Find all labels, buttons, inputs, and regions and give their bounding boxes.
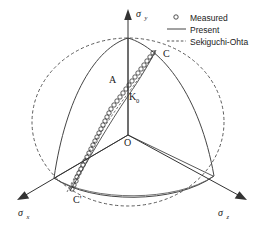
measured-point	[148, 55, 152, 59]
measured-point	[136, 71, 140, 75]
legend-label-sekiguchi-ohta: Sekiguchi-Ohta	[190, 37, 248, 47]
axis-sigma-z	[128, 135, 247, 200]
present-yield-surface	[54, 38, 214, 197]
measured-point	[112, 103, 116, 107]
label-sigma-y-symbol: σ	[136, 8, 142, 19]
axis-sigma-y	[124, 9, 132, 135]
measured-point	[121, 91, 125, 95]
measured-point	[133, 75, 137, 79]
measured-point	[139, 67, 143, 71]
label-point-K0-subscript: 0	[136, 97, 139, 104]
label-point-A: A	[109, 74, 117, 85]
figure-canvas: σ y σ x σ z A K 0 O C C' Measured Presen…	[0, 0, 269, 231]
measured-point	[145, 59, 149, 63]
measured-point	[115, 99, 119, 103]
legend-item-sekiguchi-ohta[interactable]: Sekiguchi-Ohta	[167, 37, 248, 47]
measured-marker-icon	[174, 15, 178, 19]
label-sigma-x-subscript: x	[26, 213, 30, 220]
label-sigma-z-symbol: σ	[218, 207, 224, 218]
label-point-C-prime: C'	[73, 194, 82, 205]
stress-space-figure: σ y σ x σ z A K 0 O C C' Measured Presen…	[0, 0, 269, 231]
measured-data-points	[70, 51, 155, 191]
legend: Measured Present Sekiguchi-Ohta	[167, 13, 248, 47]
measured-point	[118, 95, 122, 99]
measured-point	[130, 79, 134, 83]
measured-point	[127, 83, 131, 87]
legend-item-measured[interactable]: Measured	[174, 13, 228, 23]
label-origin-O: O	[124, 137, 131, 148]
label-point-C: C	[163, 48, 170, 59]
label-sigma-y-subscript: y	[144, 14, 148, 21]
legend-label-present: Present	[190, 25, 220, 35]
origin-axis-legs	[56, 38, 213, 177]
measured-point	[142, 63, 146, 67]
legend-label-measured: Measured	[190, 13, 228, 23]
label-sigma-z-subscript: z	[226, 213, 230, 220]
label-sigma-x-symbol: σ	[18, 207, 24, 218]
axis-sigma-x	[17, 135, 128, 200]
legend-item-present[interactable]: Present	[167, 25, 220, 35]
measured-point	[109, 107, 113, 111]
